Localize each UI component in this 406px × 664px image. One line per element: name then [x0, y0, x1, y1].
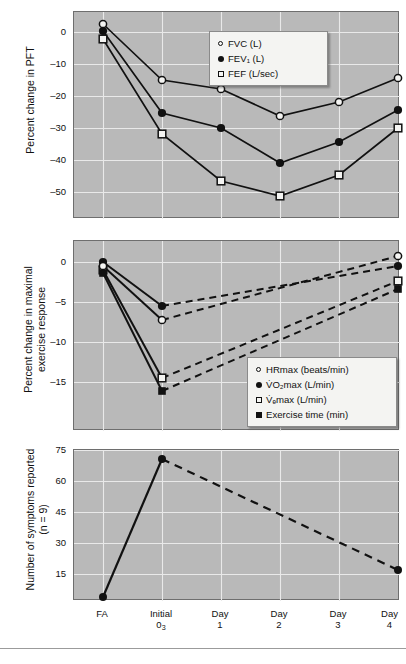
- xtick-initial-line1: Initial: [137, 608, 185, 619]
- xtick-day2: Day 2: [255, 608, 303, 630]
- open-square-icon: [215, 71, 226, 77]
- panel-symptoms: Number of symptoms reported (n = 9) 75 6…: [0, 440, 406, 664]
- panel-pft: Percent change in PFT 0 –10 –20 –30 –40 …: [0, 0, 406, 228]
- legend-item-fvc: FVC (L): [215, 37, 320, 50]
- xtick-initial-o3: Initial 03: [137, 608, 185, 631]
- panel-exercise: Percent change in maximal exercise respo…: [0, 232, 406, 438]
- xtick-fa-line1: FA: [78, 608, 126, 619]
- xtick-day3-line1: Day: [314, 608, 362, 619]
- panel-exercise-legend: HRmax (beats/min) V̇O₂max (L/min) V̇ₑmax…: [247, 357, 397, 427]
- panel-exercise-ytick-0: 0: [38, 257, 66, 267]
- xtick-day2-line2: 2: [255, 619, 303, 630]
- xtick-day4-line1: Day: [373, 608, 406, 619]
- xtick-day1-line1: Day: [196, 608, 244, 619]
- legend-item-vemax: V̇ₑmax (L/min): [253, 393, 389, 406]
- legend-item-fev1: FEV₁ (L): [215, 52, 320, 65]
- panel-pft-ytick-1: –10: [38, 59, 66, 69]
- filled-circle-icon: [253, 382, 264, 388]
- legend-label-hrmax: HRmax (beats/min): [266, 363, 349, 376]
- open-circle-icon: [253, 367, 264, 372]
- legend-label-fef: FEF (L/sec): [228, 67, 278, 80]
- legend-item-exercise-time: Exercise time (min): [253, 408, 389, 421]
- panel-pft-ytick-0: 0: [38, 27, 66, 37]
- panel-symptoms-ytick-0: 75: [38, 445, 66, 455]
- panel-pft-ylabel: Percent change in PFT: [24, 10, 36, 190]
- panel-pft-ytick-5: –50: [38, 187, 66, 197]
- panel-exercise-ytick-1: –5: [38, 297, 66, 307]
- xtick-day2-line1: Day: [255, 608, 303, 619]
- legend-item-hrmax: HRmax (beats/min): [253, 363, 389, 376]
- panel-pft-ytick-3: –30: [38, 123, 66, 133]
- xtick-initial-line2: 03: [137, 619, 185, 631]
- series-hrmax-markers: [99, 252, 401, 323]
- legend-label-fvc: FVC (L): [228, 37, 262, 50]
- legend-item-vo2max: V̇O₂max (L/min): [253, 378, 389, 391]
- xtick-day4-line2: 4: [373, 619, 406, 630]
- panel-exercise-ylabel-line1: Percent change in maximal: [22, 237, 34, 422]
- series-symptoms-markers: [99, 455, 402, 601]
- xtick-day3-line2: 3: [314, 619, 362, 630]
- panel-symptoms-ylabel-line2: (n = 9): [37, 427, 49, 612]
- xtick-fa: FA: [78, 608, 126, 619]
- xtick-day1-line2: 1: [196, 619, 244, 630]
- xtick-day4: Day 4: [373, 608, 406, 630]
- open-square-icon: [253, 397, 264, 403]
- panel-exercise-ytick-3: –15: [38, 377, 66, 387]
- legend-label-vo2max: V̇O₂max (L/min): [266, 378, 334, 391]
- legend-label-exercise-time: Exercise time (min): [266, 408, 348, 421]
- panel-symptoms-ytick-3: 30: [38, 538, 66, 548]
- panel-pft-ytick-2: –20: [38, 91, 66, 101]
- figure-three-panel-chart: Percent change in PFT 0 –10 –20 –30 –40 …: [0, 0, 406, 664]
- panel-symptoms-gridlines: [74, 450, 400, 601]
- panel-symptoms-ytick-1: 60: [38, 476, 66, 486]
- filled-square-icon: [253, 412, 264, 418]
- legend-label-fev1: FEV₁ (L): [228, 52, 264, 65]
- xtick-day3: Day 3: [314, 608, 362, 630]
- legend-label-vemax: V̇ₑmax (L/min): [266, 393, 327, 406]
- panel-exercise-plot-area: HRmax (beats/min) V̇O₂max (L/min) V̇ₑmax…: [73, 240, 399, 430]
- panel-symptoms-plot-area: [73, 449, 399, 600]
- panel-symptoms-ytick-2: 45: [38, 507, 66, 517]
- panel-symptoms-ylabel-line1: Number of symptoms reported: [24, 427, 36, 612]
- panel-exercise-ytick-2: –10: [38, 337, 66, 347]
- open-circle-icon: [215, 41, 226, 46]
- filled-circle-icon: [215, 56, 226, 62]
- panel-pft-ytick-4: –40: [38, 155, 66, 165]
- panel-pft-legend: FVC (L) FEV₁ (L) FEF (L/sec): [209, 31, 328, 86]
- figure-bottom-rule: [0, 648, 406, 649]
- panel-symptoms-ytick-4: 15: [38, 569, 66, 579]
- panel-pft-plot-area: FVC (L) FEV₁ (L) FEF (L/sec): [73, 11, 399, 218]
- symptoms-solid-segment: [103, 459, 162, 597]
- legend-item-fef: FEF (L/sec): [215, 67, 320, 80]
- xtick-day1: Day 1: [196, 608, 244, 630]
- exercise-solid-segments: [103, 262, 162, 391]
